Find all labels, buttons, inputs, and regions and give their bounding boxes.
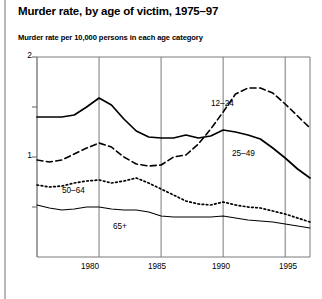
murder-rate-figure: Murder rate, by age of victim, 1975–97 M…	[0, 0, 322, 299]
series-line-50-64	[37, 178, 310, 222]
plot-area: 2 1 1980 1985 1990 1995 12–24 25–49 50–6…	[0, 0, 322, 299]
y-axis-tick-label-1: 1	[18, 150, 32, 160]
x-axis-tick-label-1985: 1985	[137, 262, 177, 271]
series-line-12-24	[37, 88, 310, 166]
series-label-age-65-plus: 65+	[113, 222, 127, 231]
x-axis-tick-label-1995: 1995	[268, 262, 308, 271]
x-axis-tick-label-1980: 1980	[70, 262, 110, 271]
x-axis-tick-label-1990: 1990	[201, 262, 241, 271]
y-axis-tick-label-2: 2	[18, 50, 32, 60]
series-label-age-25-49: 25–49	[232, 149, 255, 158]
series-label-age-50-64: 50–64	[62, 186, 85, 195]
series-line-25-49	[37, 98, 310, 178]
series-line-65	[37, 205, 310, 228]
line-chart-svg	[0, 0, 322, 299]
series-label-age-12-24: 12–24	[211, 99, 234, 108]
